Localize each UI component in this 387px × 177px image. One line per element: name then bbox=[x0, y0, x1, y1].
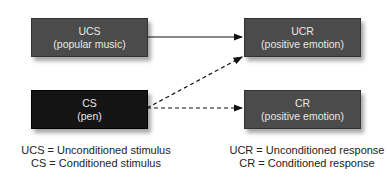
ucs-title: UCS bbox=[32, 25, 147, 38]
legend-ucs: UCS = Unconditioned stimulus bbox=[16, 144, 176, 157]
legend-cr: CR = Conditioned response bbox=[222, 157, 387, 170]
ucr-title: UCR bbox=[245, 25, 360, 38]
arrow-cs-to-ucr bbox=[147, 57, 242, 108]
cs-box: CS (pen) bbox=[31, 90, 148, 129]
ucs-box: UCS (popular music) bbox=[31, 18, 148, 57]
ucs-subtitle: (popular music) bbox=[32, 38, 147, 51]
legend-stimulus: UCS = Unconditioned stimulus CS = Condit… bbox=[16, 144, 176, 170]
cr-subtitle: (positive emotion) bbox=[245, 110, 360, 123]
cr-box: CR (positive emotion) bbox=[244, 90, 361, 129]
ucr-box: UCR (positive emotion) bbox=[244, 18, 361, 57]
legend-response: UCR = Unconditioned response CR = Condit… bbox=[222, 144, 387, 170]
cs-subtitle: (pen) bbox=[32, 110, 147, 123]
legend-ucr: UCR = Unconditioned response bbox=[222, 144, 387, 157]
legend-cs: CS = Conditioned stimulus bbox=[16, 157, 176, 170]
ucr-subtitle: (positive emotion) bbox=[245, 38, 360, 51]
cr-title: CR bbox=[245, 97, 360, 110]
cs-title: CS bbox=[32, 97, 147, 110]
